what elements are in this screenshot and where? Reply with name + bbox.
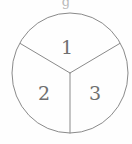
figure-container: g 1 2 3 [0,0,132,144]
sector-label-3: 3 [89,82,101,104]
sector-label-2: 2 [38,82,50,104]
sector-label-1: 1 [61,36,73,58]
radius-upper-right [70,44,120,74]
top-cropped-glyph-artifact: g [62,0,70,9]
sector-diagram: g 1 2 3 [0,0,132,144]
